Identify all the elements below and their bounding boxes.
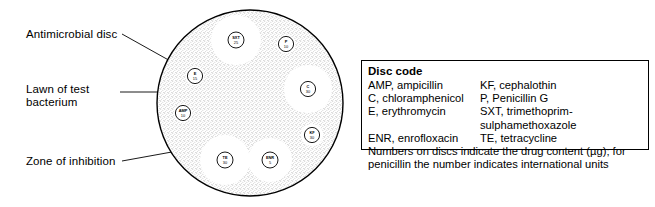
legend-row: C, chloramphenicol P, Penicillin G bbox=[368, 92, 648, 105]
disc-c: C 30 bbox=[300, 81, 315, 96]
disc-amp: AMP 10 bbox=[175, 105, 190, 120]
legend-title: Disc code bbox=[368, 64, 648, 78]
disc-te: TE 30 bbox=[217, 152, 233, 168]
legend-entry-c: C, chloramphenicol bbox=[368, 92, 480, 105]
figure-root: Antimicrobial disc Lawn of test bacteriu… bbox=[0, 0, 655, 207]
disc-enr-value: 5 bbox=[269, 160, 271, 165]
legend-entry-amp: AMP, ampicillin bbox=[368, 79, 480, 92]
disc-e-value: 15 bbox=[193, 76, 197, 81]
legend-entry-sxt: SXT, trimethoprim-sulphamethoxazole bbox=[480, 105, 648, 131]
disc-enr: ENR 5 bbox=[262, 152, 278, 168]
disc-p: P 10 bbox=[278, 36, 293, 51]
legend-entry-kf: KF, cephalothin bbox=[480, 79, 648, 92]
legend-note: Numbers on discs indicate the drug conte… bbox=[368, 145, 648, 171]
disc-kf: KF 30 bbox=[304, 127, 319, 142]
legend-entry-te: TE, tetracycline bbox=[480, 132, 648, 145]
legend-row: AMP, ampicillin KF, cephalothin bbox=[368, 79, 648, 92]
legend-row: E, erythromycin SXT, trimethoprim-sulpha… bbox=[368, 105, 648, 131]
legend-entry-e: E, erythromycin bbox=[368, 105, 480, 131]
disc-e: E 15 bbox=[187, 68, 202, 83]
legend-entry-enr: ENR, enrofloxacin bbox=[368, 132, 480, 145]
disc-code-legend: Disc code AMP, ampicillin KF, cephalothi… bbox=[361, 60, 649, 150]
disc-sxt-value: 25 bbox=[234, 40, 238, 45]
legend-entry-p: P, Penicillin G bbox=[480, 92, 648, 105]
agar-plate-diagram: SXT 25 P 10 C 30 E 15 AMP 10 bbox=[0, 0, 360, 207]
legend-row: ENR, enrofloxacin TE, tetracycline bbox=[368, 132, 648, 145]
disc-sxt: SXT 25 bbox=[228, 32, 244, 48]
